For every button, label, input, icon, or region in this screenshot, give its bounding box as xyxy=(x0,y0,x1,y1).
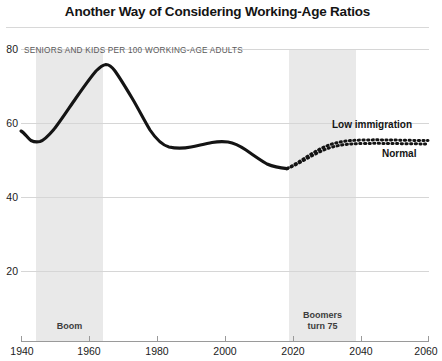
series-historical-path xyxy=(21,65,287,169)
series-label-normal: Normal xyxy=(382,148,416,159)
series-label-low-immigration: Low immigration xyxy=(332,119,412,130)
